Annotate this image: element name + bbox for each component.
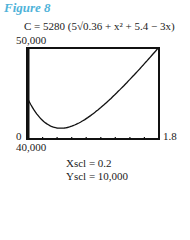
ymin-label: 40,000 (16, 141, 46, 153)
yscl-label: Yscl = 10,000 (66, 170, 128, 182)
graph-frame (27, 48, 159, 139)
xmax-label: 1.8 (163, 130, 177, 142)
xscl-label: Xscl = 0.2 (66, 157, 112, 169)
